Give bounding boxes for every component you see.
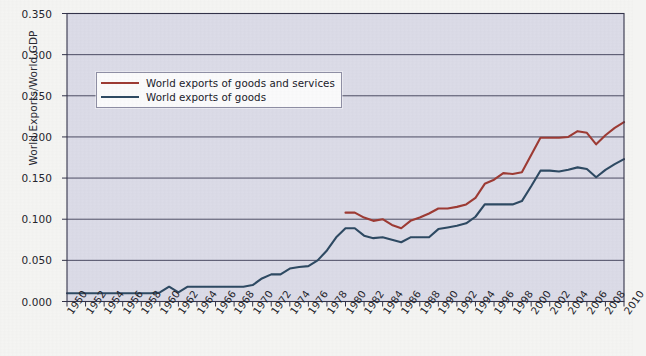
y-tick-label: 0.100 xyxy=(6,213,52,225)
y-tick-label: 0.200 xyxy=(6,131,52,143)
legend-item: World exports of goods and services xyxy=(101,76,335,90)
y-tick-label: 0.250 xyxy=(6,90,52,102)
y-tick-marks xyxy=(62,14,67,302)
plot-background xyxy=(67,14,624,302)
legend-label-goods-and-services: World exports of goods and services xyxy=(146,77,335,89)
y-tick-label: 0.300 xyxy=(6,49,52,61)
y-tick-label: 0.000 xyxy=(6,296,52,308)
y-tick-label: 0.350 xyxy=(6,8,52,20)
chart-legend: World exports of goods and services Worl… xyxy=(96,72,342,108)
y-tick-label: 0.050 xyxy=(6,254,52,266)
y-tick-label: 0.150 xyxy=(6,172,52,184)
legend-item: World exports of goods xyxy=(101,90,335,104)
legend-swatch-goods-and-services xyxy=(101,82,139,84)
y-axis-tick-labels: 0.0000.0500.1000.1500.2000.2500.3000.350 xyxy=(0,0,52,356)
legend-swatch-goods xyxy=(101,96,139,98)
legend-label-goods: World exports of goods xyxy=(146,91,266,103)
